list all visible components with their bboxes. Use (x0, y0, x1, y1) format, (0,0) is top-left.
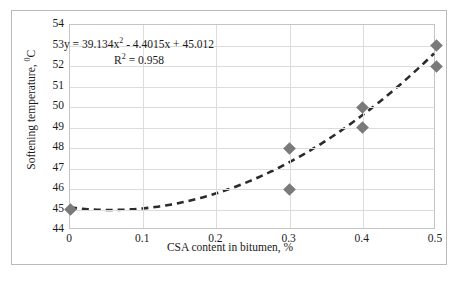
r-squared-line: R2 = 0.958 (24, 52, 254, 68)
equation-prefix: y = 39.134x (64, 38, 119, 50)
y-axis-tick-label: 51 (38, 80, 64, 92)
gridline-vertical (290, 25, 291, 228)
equation-line: y = 39.134x2 - 4.4015x + 45.012 (24, 36, 254, 52)
y-axis-tick-label: 46 (38, 182, 64, 194)
r-squared-suffix: = 0.958 (126, 54, 164, 66)
chart-figure: Softening temperature, 0C 44454647484950… (11, 10, 447, 265)
gridline-horizontal (70, 107, 434, 108)
y-axis-tick-label: 48 (38, 141, 64, 153)
y-axis-tick-label: 47 (38, 162, 64, 174)
gridline-horizontal (70, 128, 434, 129)
gridline-horizontal (70, 189, 434, 190)
gridline-horizontal (70, 210, 434, 211)
gridline-horizontal (70, 169, 434, 170)
x-axis-title: CSA content in bitumen, % (12, 241, 448, 253)
y-axis-tick-label: 50 (38, 100, 64, 112)
r-squared-prefix: R (114, 54, 122, 66)
trendline-path (70, 54, 434, 210)
y-axis-tick-label: 49 (38, 121, 64, 133)
y-axis-tick-label: 45 (38, 203, 64, 215)
y-axis-tick-label: 54 (38, 18, 64, 30)
gridline-horizontal (70, 87, 434, 88)
equation-suffix: - 4.4015x + 45.012 (123, 38, 214, 50)
regression-equation-annotation: y = 39.134x2 - 4.4015x + 45.012 R2 = 0.9… (24, 36, 254, 69)
gridline-horizontal (70, 148, 434, 149)
